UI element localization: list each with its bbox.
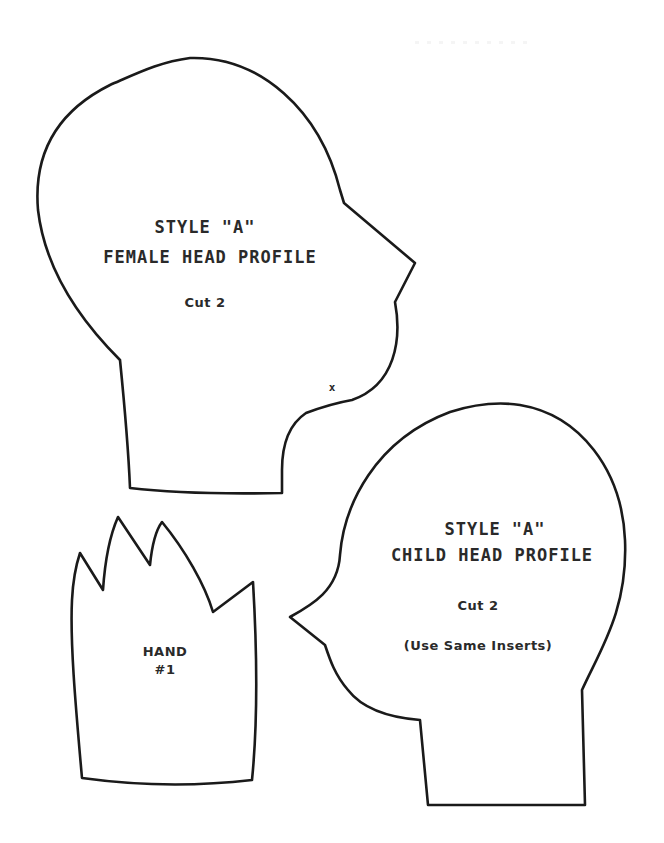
female-head-title-line1: STYLE "A" [140,216,270,238]
child-head-title-line1: STYLE "A" [430,518,560,540]
child-head-cut-instruction: Cut 2 [438,597,518,615]
child-head-title-line2: CHILD HEAD PROFILE [362,544,622,566]
hand-title-line1: HAND [125,643,205,661]
child-head-inserts-note: (Use Same Inserts) [388,637,568,655]
female-head-cut-instruction: Cut 2 [170,294,240,312]
hand-title-line2: #1 [125,661,205,679]
female-head-title-line2: FEMALE HEAD PROFILE [80,246,340,268]
pattern-page: STYLE "A" FEMALE HEAD PROFILE Cut 2 x ST… [0,0,664,843]
female-head-outline [37,58,415,494]
female-head-alignment-marker: x [326,381,338,394]
pattern-outlines [0,0,664,843]
